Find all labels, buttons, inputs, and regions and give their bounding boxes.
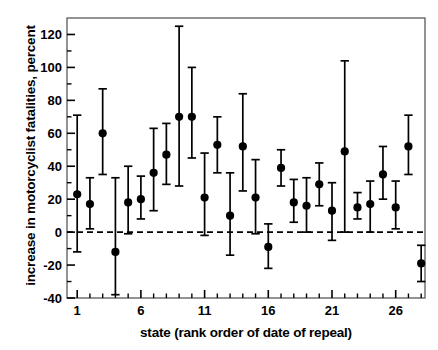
data-point-group — [86, 178, 94, 229]
data-point-group — [111, 178, 119, 295]
data-point-group — [200, 153, 208, 235]
data-point-marker — [404, 142, 412, 150]
data-point-group — [290, 179, 298, 222]
data-point-marker — [175, 113, 183, 121]
y-tick-label: 40 — [48, 159, 62, 174]
data-point-group — [162, 123, 170, 184]
data-point-marker — [353, 203, 361, 211]
y-axis-tick-labels: -40-20020406080100120 — [18, 0, 62, 350]
data-point-group — [137, 176, 145, 219]
x-tick-label: 1 — [74, 303, 81, 318]
data-point-group — [341, 61, 349, 232]
data-point-marker — [341, 147, 349, 155]
data-point-group — [277, 150, 285, 186]
data-point-group — [302, 178, 310, 232]
data-point-marker — [111, 248, 119, 256]
chart-figure: increase in motorcyclist fatalities, per… — [0, 0, 438, 350]
data-point-group — [379, 146, 387, 199]
data-point-group — [226, 173, 234, 255]
data-point-marker — [315, 180, 323, 188]
data-point-marker — [379, 170, 387, 178]
y-tick-label: -40 — [43, 291, 62, 306]
y-tick-label: 100 — [40, 60, 62, 75]
data-point-marker — [213, 141, 221, 149]
y-tick-label: 80 — [48, 93, 62, 108]
data-point-marker — [328, 207, 336, 215]
x-axis-label: state (rank order of date of repeal) — [67, 325, 425, 340]
data-point-marker — [392, 203, 400, 211]
data-point-marker — [302, 202, 310, 210]
data-point-marker — [137, 195, 145, 203]
y-tick-label: 120 — [40, 27, 62, 42]
data-point-marker — [124, 198, 132, 206]
x-tick-label: 21 — [325, 303, 339, 318]
y-tick-label: 20 — [48, 192, 62, 207]
data-point-group — [366, 181, 374, 232]
data-point-marker — [264, 243, 272, 251]
plot-frame — [67, 18, 425, 298]
data-point-marker — [226, 212, 234, 220]
data-point-marker — [86, 200, 94, 208]
data-point-group — [149, 128, 157, 210]
data-point-group — [264, 224, 272, 268]
y-tick-label: 0 — [55, 225, 62, 240]
data-point-group — [251, 160, 259, 234]
x-tick-label: 11 — [198, 303, 212, 318]
data-point-marker — [366, 200, 374, 208]
x-tick-label: 16 — [261, 303, 275, 318]
data-point-marker — [150, 169, 158, 177]
x-tick-label: 26 — [388, 303, 402, 318]
data-point-marker — [99, 129, 107, 137]
data-point-marker — [239, 142, 247, 150]
data-point-group — [391, 181, 399, 229]
data-point-group — [239, 94, 247, 191]
data-point-group — [404, 115, 412, 174]
data-point-group — [188, 67, 196, 158]
data-point-marker — [73, 190, 81, 198]
data-point-marker — [277, 164, 285, 172]
data-point-marker — [290, 198, 298, 206]
data-point-marker — [200, 193, 208, 201]
data-point-marker — [417, 259, 425, 267]
data-point-group — [315, 163, 323, 206]
data-point-marker — [251, 193, 259, 201]
x-tick-label: 6 — [137, 303, 144, 318]
data-point-group — [213, 117, 221, 173]
data-point-group — [124, 166, 132, 234]
data-point-group — [417, 245, 425, 281]
y-tick-label: -20 — [43, 258, 62, 273]
y-tick-label: 60 — [48, 126, 62, 141]
data-point-marker — [162, 151, 170, 159]
data-point-marker — [188, 113, 196, 121]
plot-area — [0, 0, 438, 350]
data-point-group — [175, 26, 183, 186]
data-point-group — [353, 193, 361, 219]
data-point-group — [98, 89, 106, 175]
